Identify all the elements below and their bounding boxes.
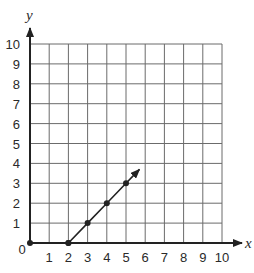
data-series (27, 169, 139, 246)
y-tick-label: 10 (6, 37, 20, 52)
data-point-marker (85, 220, 91, 226)
y-tick-label: 7 (13, 97, 20, 112)
x-tick-label: 1 (46, 250, 53, 265)
x-tick-label: 8 (180, 250, 187, 265)
data-point-marker (104, 200, 110, 206)
y-tick-label: 8 (13, 77, 20, 92)
x-tick-label: 6 (142, 250, 149, 265)
x-tick-label: 7 (161, 250, 168, 265)
x-tick-label: 2 (65, 250, 72, 265)
data-point-marker (27, 240, 33, 246)
axes (30, 28, 242, 243)
data-point-marker (65, 240, 71, 246)
x-tick-label: 4 (103, 250, 110, 265)
y-tick-label: 5 (13, 137, 20, 152)
origin-label: 0 (18, 242, 25, 257)
x-tick-label: 3 (84, 250, 91, 265)
y-axis-label: y (24, 7, 33, 23)
x-tick-label: 5 (122, 250, 129, 265)
x-axis-label: x (244, 235, 252, 251)
grid-lines (30, 44, 222, 243)
y-tick-label: 4 (13, 156, 20, 171)
y-tick-label: 6 (13, 117, 20, 132)
y-tick-label: 2 (13, 196, 20, 211)
coordinate-grid-chart: xy12345678910123456789100 (0, 0, 254, 273)
ray-line (68, 169, 139, 243)
y-tick-label: 3 (13, 176, 20, 191)
y-tick-label: 9 (13, 57, 20, 72)
y-tick-label: 1 (13, 216, 20, 231)
tick-labels: xy12345678910123456789100 (6, 7, 252, 265)
x-tick-label: 10 (215, 250, 229, 265)
data-point-marker (123, 180, 129, 186)
x-tick-label: 9 (199, 250, 206, 265)
